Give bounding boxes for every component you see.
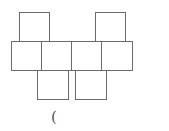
square-mid-2: [41, 41, 72, 71]
square-bottom-left: [37, 70, 69, 100]
square-mid-1: [11, 41, 42, 71]
square-top-left: [19, 12, 50, 42]
square-bottom-right: [75, 70, 107, 100]
square-mid-3: [71, 41, 102, 71]
square-top-right: [95, 12, 126, 42]
caption-paren: (: [51, 110, 57, 125]
square-mid-4: [101, 41, 133, 71]
